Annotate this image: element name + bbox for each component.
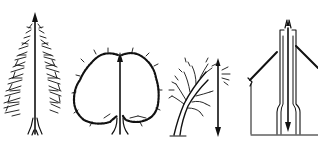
rounded-deciduous-tree bbox=[72, 48, 162, 134]
arrowhead-icon bbox=[285, 122, 291, 132]
windswept-tree bbox=[169, 58, 230, 137]
illustration bbox=[0, 0, 318, 142]
arrowhead-icon bbox=[32, 12, 38, 22]
arrowhead-icon bbox=[215, 127, 221, 137]
house-with-chimney bbox=[248, 20, 318, 135]
arrowhead-icon bbox=[216, 58, 221, 66]
conifer-tree bbox=[4, 12, 61, 135]
figure-canvas bbox=[0, 0, 318, 142]
arrowhead-icon bbox=[117, 52, 123, 62]
